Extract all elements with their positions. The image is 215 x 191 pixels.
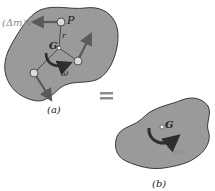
- center-g-label-a: G: [49, 40, 58, 51]
- center-g-label-b: G: [165, 119, 174, 130]
- omega-label: ω: [61, 68, 69, 78]
- mass-center-g-b: [160, 125, 164, 129]
- point-p-label: P: [66, 14, 75, 27]
- equals-sign: [100, 92, 113, 100]
- angular-momentum-label: Iω: [173, 148, 184, 157]
- momentum-label: (Δm)v: [2, 17, 33, 28]
- particle-right: [74, 57, 82, 65]
- particle-left: [30, 69, 38, 77]
- particle-p: [57, 18, 65, 26]
- rigid-body-b: [116, 98, 210, 169]
- caption-b: (b): [152, 178, 166, 189]
- caption-a: (a): [47, 104, 61, 115]
- rigid-body-momentum-diagram: (Δm)v P r G ω (a) G Iω (b): [0, 0, 215, 191]
- mass-center-g: [58, 47, 61, 50]
- figure-b: [116, 98, 210, 169]
